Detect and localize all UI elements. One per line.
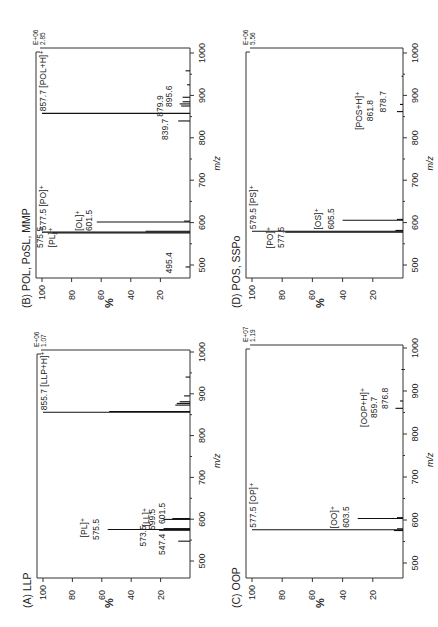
- pct-tick-label: 80: [67, 590, 77, 600]
- peak-label: [PL]⁺: [79, 518, 89, 538]
- mz-tick-label: 900: [197, 88, 207, 103]
- mz-tick-label: 800: [410, 426, 420, 441]
- peak-label: 895.6: [164, 85, 174, 107]
- peak-label: 878.7: [378, 91, 388, 113]
- panel-c: 20406080100%5006007008009001000m/z577.5 …: [230, 326, 435, 608]
- peak-label: [PO]⁺: [265, 227, 275, 249]
- mz-tick-label: 600: [197, 215, 207, 230]
- peak-label: [OL]⁺: [74, 210, 84, 231]
- peak-label: 603.5: [341, 506, 351, 528]
- mz-tick-label: 700: [410, 469, 420, 484]
- pct-tick-label: 100: [247, 285, 257, 300]
- mz-tick-label: 500: [410, 257, 420, 272]
- peak-label: 605.5: [326, 208, 336, 230]
- pct-tick-label: 100: [247, 585, 257, 600]
- scale-exponent: E+07: [242, 326, 249, 342]
- mz-tick-label: 600: [197, 512, 207, 527]
- mz-tick-label: 900: [410, 88, 420, 103]
- scale-value: 2.85: [39, 32, 46, 45]
- mz-tick-label: 900: [197, 386, 207, 401]
- pct-tick-label: 100: [38, 585, 48, 600]
- mz-tick-label: 500: [410, 555, 420, 570]
- plot-frame: [36, 48, 190, 278]
- mz-tick-label: 500: [197, 257, 207, 272]
- peak-label: 573.5: [138, 525, 148, 547]
- scale-exponent: E+06: [242, 29, 249, 45]
- panel-title: (A) LLP: [21, 572, 33, 608]
- spectra-canvas: 20406080100%5006007008009001000m/z855.7 …: [0, 0, 438, 627]
- pct-tick-label: 20: [368, 290, 378, 300]
- peak-label: 857.7 [POL+H]⁺: [38, 50, 48, 111]
- panel-title: (C) OOP: [230, 567, 242, 608]
- mz-axis-label: m/z: [212, 453, 222, 468]
- mz-tick-label: 600: [410, 512, 420, 527]
- peak-label: 575.5: [35, 227, 45, 249]
- peak-label: 876.8: [380, 387, 390, 409]
- panel-d: 20406080100%5006007008009001000m/z579.5 …: [230, 29, 435, 308]
- peak-label: 601.5: [157, 502, 167, 524]
- scale-value: 5.56: [249, 32, 256, 45]
- peak-label: [PL]⁺: [47, 228, 57, 248]
- peak-label: 855.7 [LLP+H]⁺: [39, 351, 49, 410]
- mz-tick-label: 800: [197, 428, 207, 443]
- mz-tick-label: 800: [410, 130, 420, 145]
- mz-tick-label: 700: [197, 173, 207, 188]
- peak-label: 577.5 [PO]⁺: [38, 185, 48, 230]
- mz-tick-label: 1000: [410, 43, 420, 63]
- panel-title: (D) POS, SSPo: [230, 235, 242, 308]
- mz-axis-label: m/z: [425, 155, 435, 170]
- mz-tick-label: 1000: [197, 43, 207, 63]
- peak-label: [POS+H]⁺: [354, 92, 364, 130]
- mz-axis-label: m/z: [425, 452, 435, 467]
- peak-label: 861.8: [365, 100, 375, 122]
- peak-label: 577.5: [276, 227, 286, 249]
- pct-tick-label: 40: [338, 290, 348, 300]
- mz-tick-label: 700: [197, 470, 207, 485]
- pct-tick-label: 40: [338, 590, 348, 600]
- pct-tick-label: 80: [277, 290, 287, 300]
- mz-tick-label: 800: [197, 130, 207, 145]
- pct-axis-label: %: [103, 598, 115, 608]
- scale-value: 1.19: [249, 329, 256, 342]
- pct-tick-label: 20: [368, 590, 378, 600]
- peak-label: 577.5 [OP]⁺: [248, 483, 258, 528]
- mz-tick-label: 1000: [410, 338, 420, 358]
- panel-b: 20406080100%5006007008009001000m/z857.7 …: [20, 29, 222, 308]
- pct-tick-label: 20: [156, 590, 166, 600]
- pct-tick-label: 40: [126, 590, 136, 600]
- scale-exponent: E+06: [33, 331, 40, 347]
- pct-tick-label: 20: [155, 290, 165, 300]
- peak-label: [OO]⁺: [329, 506, 339, 528]
- peak-label: 579.5 [PS]⁺: [248, 185, 258, 229]
- panel-title: (B) POL, PoSL, MMP: [20, 208, 32, 308]
- pct-axis-label: %: [314, 598, 326, 608]
- pct-tick-label: 80: [67, 290, 77, 300]
- panel-a: 20406080100%5006007008009001000m/z855.7 …: [21, 331, 222, 608]
- peak-label: 575.5: [91, 519, 101, 541]
- mz-axis-label: m/z: [212, 155, 222, 170]
- plot-frame: [246, 345, 403, 578]
- mz-tick-label: 900: [410, 383, 420, 398]
- peak-label: 547.4: [157, 533, 167, 555]
- pct-axis-label: %: [103, 298, 115, 308]
- mz-tick-label: 1000: [197, 342, 207, 362]
- mz-tick-label: 700: [410, 173, 420, 188]
- peak-label: [OS]⁺: [313, 208, 323, 230]
- mass-spectra-figure: 20406080100%5006007008009001000m/z855.7 …: [0, 0, 438, 627]
- peak-label: 859.7: [369, 396, 379, 418]
- peak-label: 601.5: [84, 210, 94, 232]
- peak-label: 839.7: [160, 118, 170, 140]
- scale-value: 1.07: [40, 334, 47, 347]
- peak-label: [OOP+H]⁺: [359, 388, 369, 427]
- peak-label: 599.5: [147, 509, 157, 531]
- mz-tick-label: 600: [410, 215, 420, 230]
- plot-frame: [37, 350, 190, 578]
- pct-axis-label: %: [314, 298, 326, 308]
- peak-label: 495.4: [164, 252, 174, 274]
- mz-tick-label: 500: [197, 553, 207, 568]
- pct-tick-label: 100: [37, 285, 47, 300]
- scale-exponent: E+06: [32, 29, 39, 45]
- pct-tick-label: 40: [126, 290, 136, 300]
- pct-tick-label: 80: [277, 590, 287, 600]
